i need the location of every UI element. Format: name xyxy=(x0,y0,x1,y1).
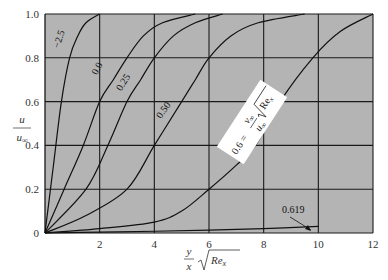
y-tick-label: 0 xyxy=(34,227,40,239)
x-tick-label: 10 xyxy=(313,238,325,250)
svg-text:u∞: u∞ xyxy=(16,131,28,145)
svg-text:Rex: Rex xyxy=(210,254,227,268)
x-tick-label: 8 xyxy=(261,238,267,250)
svg-text:u: u xyxy=(19,113,25,125)
svg-text:x: x xyxy=(186,260,192,272)
y-tick-label: 1.0 xyxy=(25,8,39,20)
x-tick-label: 12 xyxy=(368,238,379,250)
x-tick-label: 4 xyxy=(152,238,158,250)
y-tick-label: 0.6 xyxy=(25,96,39,108)
boundary-layer-velocity-profile-chart: 2468101200.20.40.60.81.0 −2.50.00.250.50… xyxy=(0,0,388,280)
y-tick-label: 0.8 xyxy=(25,52,39,64)
x-tick-label: 6 xyxy=(206,238,212,250)
svg-text:0.619: 0.619 xyxy=(282,204,305,215)
svg-text:y: y xyxy=(186,245,192,257)
y-tick-label: 0.2 xyxy=(25,183,39,195)
x-axis-label: y x Rex xyxy=(184,245,240,272)
x-tick-label: 2 xyxy=(97,238,103,250)
